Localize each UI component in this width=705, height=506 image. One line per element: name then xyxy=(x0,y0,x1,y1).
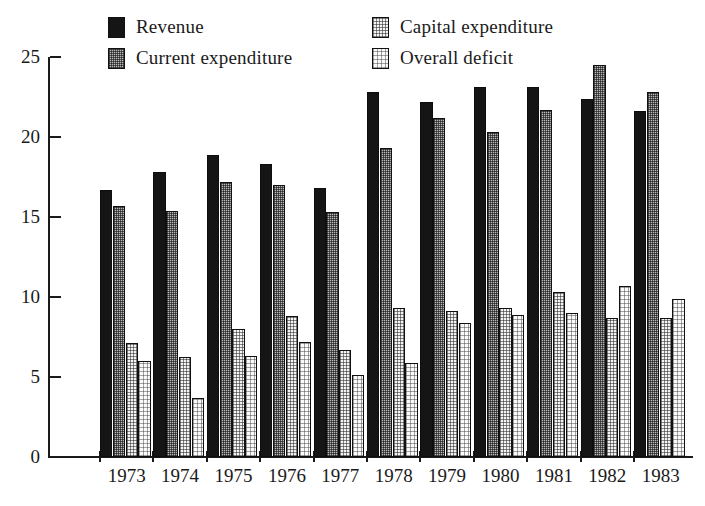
bar-group-1976 xyxy=(260,57,313,457)
bar xyxy=(207,155,219,457)
bar xyxy=(100,190,112,457)
bar xyxy=(433,118,445,457)
bar-group-1978 xyxy=(367,57,420,457)
bar xyxy=(619,286,631,457)
bar-group-1982 xyxy=(581,57,634,457)
chart-figure: RevenueCapital expenditureCurrent expend… xyxy=(0,0,705,506)
bar xyxy=(367,92,379,457)
bar xyxy=(566,313,578,457)
bar xyxy=(487,132,499,457)
plot-area: 0510152025 19731974197519761977197819791… xyxy=(0,0,705,506)
bar xyxy=(634,111,646,457)
bar-group-1979 xyxy=(420,57,473,457)
bar xyxy=(672,299,684,457)
bar xyxy=(446,311,458,457)
bar-group-1980 xyxy=(474,57,527,457)
x-tick-label: 1983 xyxy=(621,466,701,485)
bar xyxy=(527,87,539,457)
bar xyxy=(512,315,524,457)
bar-group-1974 xyxy=(153,57,206,457)
bar-group-1983 xyxy=(634,57,687,457)
bar xyxy=(499,308,511,457)
bar xyxy=(606,318,618,457)
bar xyxy=(393,308,405,457)
bar xyxy=(299,342,311,457)
bar-group-1975 xyxy=(207,57,260,457)
bar-group-1981 xyxy=(527,57,580,457)
bar xyxy=(314,188,326,457)
bar xyxy=(593,65,605,457)
bar xyxy=(405,363,417,457)
bar xyxy=(380,148,392,457)
bar xyxy=(192,398,204,457)
bar xyxy=(647,92,659,457)
bar xyxy=(660,318,672,457)
bar xyxy=(474,87,486,457)
bar xyxy=(540,110,552,457)
bar xyxy=(420,102,432,457)
bar xyxy=(138,361,150,457)
bar xyxy=(245,356,257,457)
bar xyxy=(553,292,565,457)
bar xyxy=(339,350,351,457)
bars-layer xyxy=(0,0,705,457)
bar xyxy=(113,206,125,457)
bar xyxy=(326,212,338,457)
bar xyxy=(459,323,471,457)
bar xyxy=(220,182,232,457)
bar xyxy=(581,99,593,457)
bar xyxy=(179,357,191,457)
bar-group-1977 xyxy=(314,57,367,457)
bar xyxy=(232,329,244,457)
bar xyxy=(153,172,165,457)
bar xyxy=(352,375,364,457)
bar xyxy=(126,343,138,457)
bar xyxy=(166,211,178,457)
bar xyxy=(260,164,272,457)
bar-group-1973 xyxy=(100,57,153,457)
bar xyxy=(273,185,285,457)
bar xyxy=(286,316,298,457)
